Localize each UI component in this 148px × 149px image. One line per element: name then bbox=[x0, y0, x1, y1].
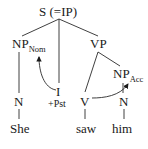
case-arrow-nom bbox=[39, 57, 56, 90]
feature-past: +Pst bbox=[48, 98, 66, 109]
word-she: She bbox=[10, 121, 30, 136]
word-him: him bbox=[112, 121, 132, 136]
node-i: I bbox=[56, 84, 60, 99]
branch-vp-v bbox=[85, 52, 98, 92]
node-np-acc: NPAcc bbox=[113, 66, 144, 84]
branch-s-np bbox=[22, 19, 59, 36]
node-s-root: S (=IP) bbox=[39, 4, 77, 19]
syntax-tree: S (=IP) NPNom VP NPAcc I +Pst N V N She … bbox=[0, 0, 148, 149]
node-vp: VP bbox=[90, 36, 107, 51]
branch-vp-np bbox=[98, 52, 120, 66]
branch-s-vp bbox=[59, 19, 98, 36]
node-n-subject: N bbox=[14, 94, 24, 109]
node-n-object: N bbox=[119, 94, 129, 109]
word-saw: saw bbox=[76, 121, 97, 136]
node-np-nom: NPNom bbox=[12, 36, 46, 54]
node-v: V bbox=[80, 94, 90, 109]
